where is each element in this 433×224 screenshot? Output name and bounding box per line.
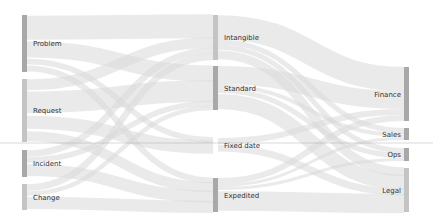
node-ops bbox=[404, 148, 409, 161]
node-label-change: Change bbox=[33, 194, 60, 202]
node-finance bbox=[404, 67, 409, 121]
node-expedited bbox=[213, 178, 218, 212]
node-legal bbox=[404, 168, 409, 212]
node-problem bbox=[22, 15, 27, 72]
node-sales bbox=[404, 128, 409, 140]
link-change-to-expedited bbox=[27, 203, 213, 207]
node-label-legal: Legal bbox=[382, 187, 401, 195]
node-intangible bbox=[213, 15, 218, 60]
node-label-ops: Ops bbox=[387, 151, 401, 159]
node-label-fixed: Fixed date bbox=[224, 142, 260, 150]
link-problem-to-intangible bbox=[27, 26, 213, 28]
link-expedited-to-legal bbox=[218, 201, 404, 204]
node-incident bbox=[22, 150, 27, 177]
sankey-diagram: ProblemRequestIncidentChangeIntangibleSt… bbox=[0, 0, 433, 224]
node-standard bbox=[213, 66, 218, 110]
node-label-incident: Incident bbox=[33, 160, 61, 168]
node-label-standard: Standard bbox=[224, 85, 256, 93]
node-label-request: Request bbox=[33, 107, 62, 115]
node-label-finance: Finance bbox=[374, 91, 401, 99]
node-label-problem: Problem bbox=[33, 40, 62, 48]
node-label-expedited: Expedited bbox=[224, 192, 259, 200]
node-request bbox=[22, 79, 27, 142]
node-label-intangible: Intangible bbox=[224, 34, 259, 42]
node-change bbox=[22, 184, 27, 210]
node-label-sales: Sales bbox=[382, 131, 401, 139]
